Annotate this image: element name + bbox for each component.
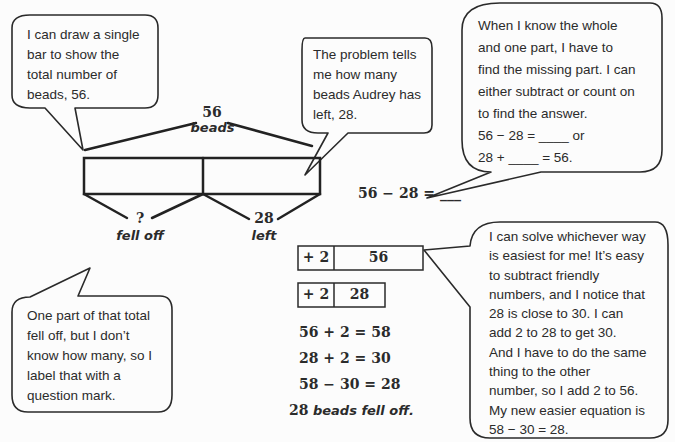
text-line: to subtract friendly <box>489 266 647 285</box>
part1-label: fell off <box>105 228 175 243</box>
text-line: numbers, and I notice that <box>489 285 647 304</box>
text-line: I can solve whichever way <box>489 227 647 246</box>
text-line: beads, 56. <box>27 85 140 105</box>
bubble-easiest-text: I can solve whichever way is easiest for… <box>489 227 647 439</box>
equation-count-on: 28 + ____ = 56. <box>478 147 636 169</box>
text-line: and one part, I have to <box>478 37 636 59</box>
equation-subtract: 56 − 28 = ____ or <box>478 125 636 147</box>
text-line: When I know the whole <box>478 15 636 37</box>
box1-add: + 2 <box>298 249 334 265</box>
box1-value: 56 <box>334 249 423 265</box>
part2-label: left <box>244 228 284 243</box>
text-line: is easiest for me! It’s easy <box>489 246 647 265</box>
part1-value: ? <box>130 210 150 226</box>
text-line: number, so I add 2 to 56. <box>489 381 647 400</box>
text-line: bar to show the <box>27 45 140 65</box>
text-line: beads Audrey has <box>313 85 421 105</box>
text-line: One part of that total <box>27 306 152 326</box>
text-line: either subtract or count on <box>478 81 636 103</box>
answer-number: 28 <box>289 402 308 418</box>
text-line: thing to the other <box>489 362 647 381</box>
text-line: know how many, so I <box>27 346 152 366</box>
box2-value: 28 <box>334 286 385 302</box>
text-line: I can draw a single <box>27 25 140 45</box>
bubble-fell-off-text: One part of that total fell off, but I d… <box>27 306 152 406</box>
text-line: add 2 to 28 to get 30. <box>489 323 647 342</box>
box2-add: + 2 <box>298 286 334 302</box>
text-line: left, 28. <box>313 105 421 125</box>
part2-value: 28 <box>252 210 276 226</box>
total-value: 56 <box>200 104 224 120</box>
answer-text: beads fell off. <box>313 403 414 418</box>
text-line: fell off, but I don’t <box>27 326 152 346</box>
bubble-audrey-left-text: The problem tells me how many beads Audr… <box>313 45 421 125</box>
text-line: The problem tells <box>313 45 421 65</box>
text-line: question mark. <box>27 386 152 406</box>
text-line: total number of <box>27 65 140 85</box>
text-line: 28 is close to 30. I can <box>489 304 647 323</box>
answer-statement: 28 beads fell off. <box>289 401 414 419</box>
text-line: label that with a <box>27 366 152 386</box>
total-label: beads <box>185 120 240 135</box>
text-line: to find the answer. <box>478 103 636 125</box>
text-line: find the missing part. I can <box>478 59 636 81</box>
text-line: And I have to do the same <box>489 343 647 362</box>
bubble-single-bar-text: I can draw a single bar to show the tota… <box>27 25 140 105</box>
work-line-1: 56 + 2 = 58 <box>299 324 391 340</box>
text-line: me how many <box>313 65 421 85</box>
bubble-whole-part-text: When I know the whole and one part, I ha… <box>478 15 636 169</box>
work-line-3: 58 − 30 = 28 <box>299 376 400 392</box>
work-line-2: 28 + 2 = 30 <box>299 350 391 366</box>
text-line: My new easier equation is <box>489 401 647 420</box>
main-equation: 56 − 28 = ___ <box>358 185 461 201</box>
text-line: 58 − 30 = 28. <box>489 420 647 439</box>
